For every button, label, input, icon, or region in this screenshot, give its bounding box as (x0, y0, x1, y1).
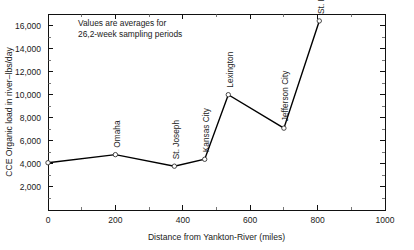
plot-border (48, 14, 385, 210)
data-point-label: Jefferson City (280, 70, 290, 121)
y-axis-tick-labels: 2,0004,0006,0008,00010,00012,00014,00016… (15, 21, 41, 192)
y-axis-major-ticks (48, 26, 385, 187)
data-point-marker (46, 161, 50, 165)
y-tick-label: 16,000 (15, 21, 41, 31)
annotation-line: Values are averages for (78, 18, 167, 28)
y-tick-label: 8,000 (20, 113, 42, 123)
x-tick-label: 800 (311, 215, 325, 225)
x-axis-title: Distance from Yankton-River (miles) (148, 232, 285, 242)
data-point-label: Omaha (112, 120, 122, 148)
chart-annotation: Values are averages for26,2-week samplin… (78, 18, 182, 39)
x-tick-label: 0 (46, 215, 51, 225)
data-point-marker (226, 93, 230, 97)
y-tick-label: 4,000 (20, 159, 42, 169)
y-axis-minor-ticks (48, 37, 385, 198)
data-point-marker (282, 126, 286, 130)
axis-titles: Distance from Yankton-River (miles)CCE O… (4, 47, 285, 242)
x-tick-label: 400 (176, 215, 190, 225)
data-point-label: St. Louis (316, 0, 326, 14)
data-point-marker (203, 157, 207, 161)
x-tick-label: 600 (243, 215, 257, 225)
data-point-marker (317, 19, 321, 23)
x-axis-tick-labels: 02004006008001000 (46, 215, 395, 225)
data-point-label: St. Joseph (171, 120, 181, 160)
chart-container: 02004006008001000 2,0004,0006,0008,00010… (0, 0, 414, 250)
data-point-label: Kansas City (201, 107, 211, 152)
y-tick-label: 10,000 (15, 90, 41, 100)
y-axis-title: CCE Organic load in river–lbs/day (4, 47, 14, 177)
data-point-marker (113, 152, 117, 156)
data-point-label: Lexington (225, 51, 235, 87)
x-axis-major-ticks (48, 14, 385, 210)
x-tick-label: 1000 (376, 215, 395, 225)
plot-frame (48, 14, 385, 210)
data-point-marker (172, 164, 176, 168)
series-line-organic-load (48, 21, 319, 166)
organic-load-line-chart: 02004006008001000 2,0004,0006,0008,00010… (0, 0, 414, 250)
x-tick-label: 200 (108, 215, 122, 225)
data-series (48, 21, 319, 166)
x-axis-minor-ticks (82, 14, 352, 210)
annotation-line: 26,2-week sampling periods (78, 29, 182, 39)
y-tick-label: 14,000 (15, 44, 41, 54)
y-tick-label: 12,000 (15, 67, 41, 77)
y-tick-label: 6,000 (20, 136, 42, 146)
y-tick-label: 2,000 (20, 182, 42, 192)
